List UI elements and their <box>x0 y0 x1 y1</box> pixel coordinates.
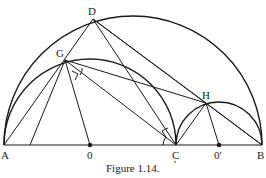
label-D: D <box>88 5 96 17</box>
point-O <box>88 143 93 148</box>
semicircle-CB <box>176 102 262 145</box>
label-O: 0 <box>87 149 93 161</box>
line-DC <box>93 19 176 145</box>
angle-arc-C <box>163 137 166 145</box>
label-B: B <box>257 149 264 161</box>
label-A: A <box>1 149 9 161</box>
semicircle-AC <box>4 59 176 145</box>
label-O-prime: 0′ <box>214 149 222 161</box>
line-HC <box>176 103 206 145</box>
label-H: H <box>202 89 210 101</box>
line-G-down <box>30 60 65 145</box>
caption-mark: ' <box>174 158 176 170</box>
label-G: G <box>56 47 64 59</box>
line-HB <box>206 103 262 145</box>
point-O-prime <box>217 143 222 148</box>
line-GH <box>65 60 206 103</box>
line-AD <box>4 19 93 145</box>
line-HO-prime <box>206 103 219 145</box>
right-angle-mark-C <box>162 128 168 137</box>
right-angle-mark-G <box>72 71 78 80</box>
line-GO <box>65 60 90 145</box>
geometry-figure: A 0 C 0′ B D G H Figure 1.14. ' <box>0 0 266 178</box>
figure-caption: Figure 1.14. <box>106 162 160 174</box>
